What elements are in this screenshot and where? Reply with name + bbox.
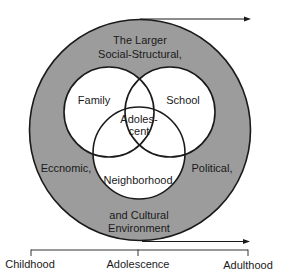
outer-label-bottom-1: and Cultural [109,209,168,221]
outer-label-left: Eccnomic, [41,162,92,174]
timeline-label-adulthood: Adulthood [223,259,273,271]
outer-label-line-2: Social-Structural, [98,48,182,60]
arrowhead-icon [243,239,250,244]
developmental-timeline [31,250,248,257]
neighborhood-label: Neighborhood [103,174,172,186]
adolescent-label-line-1: Adoles- [120,113,158,125]
family-label: Family [78,94,111,106]
timeline-label-childhood: Childhood [5,258,55,270]
school-label: School [166,94,200,106]
arrowhead-icon [244,17,251,22]
outer-label-line-1: The Larger [113,34,167,46]
timeline-label-adolescence: Adolescence [107,258,170,270]
ecological-model-diagram: The Larger Social-Structural, Eccnomic, … [0,0,284,280]
outer-label-right: Political, [192,162,233,174]
outer-label-bottom-2: Environment [108,222,170,234]
adolescent-label-line-2: cent [129,125,150,137]
